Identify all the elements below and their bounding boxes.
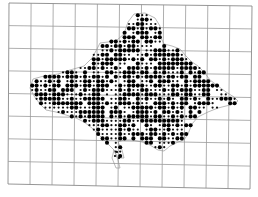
large-dot xyxy=(228,97,232,101)
small-dot xyxy=(128,124,130,126)
large-dot xyxy=(197,84,201,88)
large-dot xyxy=(140,57,144,61)
small-dot xyxy=(132,23,134,25)
large-dot xyxy=(145,70,149,74)
large-dot xyxy=(114,75,118,79)
small-dot xyxy=(119,63,121,65)
large-dot xyxy=(193,106,197,110)
large-dot xyxy=(79,114,83,118)
small-dot xyxy=(132,89,134,91)
large-dot xyxy=(127,66,131,70)
small-dot xyxy=(198,89,200,91)
large-dot xyxy=(131,92,135,96)
large-dot xyxy=(162,119,166,123)
large-dot xyxy=(70,88,74,92)
large-dot xyxy=(61,88,65,92)
large-dot xyxy=(105,70,109,74)
large-dot xyxy=(153,70,157,74)
large-dot xyxy=(171,84,175,88)
small-dot xyxy=(93,71,95,73)
large-dot xyxy=(171,75,175,79)
small-dot xyxy=(176,107,178,109)
large-dot xyxy=(140,132,144,136)
large-dot xyxy=(127,114,131,118)
large-dot xyxy=(92,88,96,92)
large-dot xyxy=(162,79,166,83)
small-dot xyxy=(115,137,117,139)
small-dot xyxy=(110,102,112,104)
small-dot xyxy=(49,102,51,104)
large-dot xyxy=(118,123,122,127)
small-dot xyxy=(220,93,222,95)
large-dot xyxy=(92,75,96,79)
small-dot xyxy=(141,76,143,78)
small-dot xyxy=(168,58,170,60)
small-dot xyxy=(137,71,139,73)
small-dot xyxy=(115,115,117,117)
large-dot xyxy=(65,70,69,74)
large-dot xyxy=(118,57,122,61)
large-dot xyxy=(101,106,105,110)
small-dot xyxy=(115,120,117,122)
large-dot xyxy=(123,136,127,140)
large-dot xyxy=(184,123,188,127)
small-dot xyxy=(102,129,104,131)
large-dot xyxy=(131,84,135,88)
large-dot xyxy=(52,97,56,101)
small-dot xyxy=(212,102,214,104)
small-dot xyxy=(106,129,108,131)
large-dot xyxy=(101,79,105,83)
small-dot xyxy=(146,129,148,131)
large-dot xyxy=(70,84,74,88)
small-dot xyxy=(97,71,99,73)
large-dot xyxy=(171,119,175,123)
large-dot xyxy=(162,106,166,110)
large-dot xyxy=(153,26,157,30)
small-dot xyxy=(119,76,121,78)
large-dot xyxy=(109,40,113,44)
small-dot xyxy=(110,133,112,135)
large-dot xyxy=(180,62,184,66)
large-dot xyxy=(65,75,69,79)
large-dot xyxy=(136,31,140,35)
small-dot xyxy=(115,93,117,95)
small-dot xyxy=(163,76,165,78)
small-dot xyxy=(128,54,130,56)
small-dot xyxy=(66,80,68,82)
small-dot xyxy=(88,107,90,109)
large-dot xyxy=(131,44,135,48)
large-dot xyxy=(189,70,193,74)
small-dot xyxy=(190,85,192,87)
large-dot xyxy=(145,106,149,110)
large-dot xyxy=(127,26,131,30)
small-dot xyxy=(172,137,174,139)
large-dot xyxy=(87,101,91,105)
large-dot xyxy=(57,97,61,101)
large-dot xyxy=(131,26,135,30)
large-dot xyxy=(131,57,135,61)
grid-row-line xyxy=(9,3,252,6)
large-dot xyxy=(83,79,87,83)
small-dot xyxy=(225,93,227,95)
large-dot xyxy=(118,145,122,149)
large-dot xyxy=(127,44,131,48)
large-dot xyxy=(114,110,118,114)
large-dot xyxy=(70,79,74,83)
large-dot xyxy=(123,101,127,105)
small-dot xyxy=(168,89,170,91)
large-dot xyxy=(149,141,153,145)
large-dot xyxy=(215,84,219,88)
small-dot xyxy=(159,124,161,126)
small-dot xyxy=(93,85,95,87)
small-dot xyxy=(88,124,90,126)
small-dot xyxy=(198,67,200,69)
large-dot xyxy=(180,132,184,136)
large-dot xyxy=(158,31,162,35)
large-dot xyxy=(96,128,100,132)
small-dot xyxy=(150,67,152,69)
small-dot xyxy=(115,102,117,104)
large-dot xyxy=(140,35,144,39)
small-dot xyxy=(115,133,117,135)
large-dot xyxy=(118,44,122,48)
large-dot xyxy=(118,53,122,57)
